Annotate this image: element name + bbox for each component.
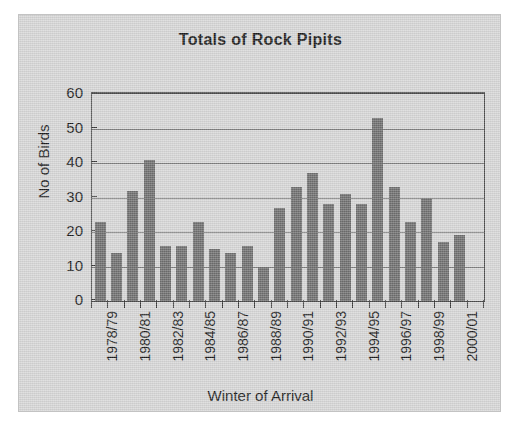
- bar: [127, 191, 138, 301]
- x-axis-tick-labels: 1978/791980/811982/831984/851986/871988/…: [91, 311, 483, 383]
- bar: [144, 160, 155, 301]
- x-axis-tick-mark: [385, 300, 386, 308]
- x-axis-tick-mark: [222, 300, 223, 308]
- bar-series: [92, 94, 484, 301]
- x-axis-tick-mark: [140, 300, 141, 308]
- x-axis-tick-mark: [205, 300, 206, 308]
- bar: [438, 242, 449, 301]
- x-axis-tick-label: 1978/79: [104, 311, 120, 362]
- x-axis-tick-mark: [173, 300, 174, 308]
- y-axis-tick-label: 0: [51, 291, 83, 308]
- y-axis-tick-label: 20: [51, 222, 83, 239]
- bar: [323, 204, 334, 301]
- x-axis-tick-marks: [91, 300, 483, 309]
- x-axis-tick-mark: [254, 300, 255, 308]
- x-axis-tick-mark: [303, 300, 304, 308]
- x-axis-tick-mark: [418, 300, 419, 308]
- bar: [389, 187, 400, 301]
- x-axis-tick-label: 1982/83: [170, 311, 186, 362]
- bar: [405, 222, 416, 301]
- bar: [454, 235, 465, 301]
- x-axis-tick-label: 1986/87: [235, 311, 251, 362]
- x-axis-tick-mark: [238, 300, 239, 308]
- bar: [356, 204, 367, 301]
- x-axis-tick-mark: [336, 300, 337, 308]
- bar: [193, 222, 204, 301]
- x-axis-tick-mark: [483, 300, 484, 308]
- x-axis-tick-mark: [107, 300, 108, 308]
- x-axis-tick-label: 2000/01: [464, 311, 480, 362]
- x-axis-tick-mark: [156, 300, 157, 308]
- x-axis-tick-label: 1984/85: [202, 311, 218, 362]
- x-axis-title: Winter of Arrival: [19, 387, 501, 404]
- plot-area: [91, 92, 485, 302]
- bar: [291, 187, 302, 301]
- x-axis-tick-mark: [189, 300, 190, 308]
- bar: [111, 253, 122, 301]
- bar: [209, 249, 220, 301]
- chart-title: Totals of Rock Pipits: [19, 31, 501, 49]
- x-axis-tick-label: 1996/97: [398, 311, 414, 362]
- bar: [160, 246, 171, 301]
- bar: [307, 173, 318, 301]
- chart-figure: Totals of Rock Pipits No of Birds 605040…: [0, 0, 519, 426]
- y-axis-tick-labels: 6050403020100: [49, 92, 83, 300]
- bar: [95, 222, 106, 301]
- bar: [340, 194, 351, 301]
- bar: [176, 246, 187, 301]
- x-axis-tick-mark: [320, 300, 321, 308]
- x-axis-tick-mark: [369, 300, 370, 308]
- x-axis-tick-mark: [352, 300, 353, 308]
- bar: [258, 267, 269, 302]
- y-axis-tick-label: 10: [51, 256, 83, 273]
- x-axis-tick-mark: [271, 300, 272, 308]
- bar: [421, 198, 432, 302]
- bar: [242, 246, 253, 301]
- y-axis-tick-label: 50: [51, 118, 83, 135]
- x-axis-tick-mark: [287, 300, 288, 308]
- x-axis-tick-label: 1998/99: [431, 311, 447, 362]
- y-axis-tick-label: 60: [51, 84, 83, 101]
- x-axis-tick-mark: [467, 300, 468, 308]
- bar: [274, 208, 285, 301]
- y-axis-tick-mark: [91, 92, 97, 93]
- x-axis-tick-label: 1994/95: [366, 311, 382, 362]
- x-axis-tick-label: 1980/81: [137, 311, 153, 362]
- bar: [225, 253, 236, 301]
- x-axis-tick-label: 1992/93: [333, 311, 349, 362]
- chart-panel: Totals of Rock Pipits No of Birds 605040…: [18, 14, 501, 412]
- x-axis-tick-mark: [401, 300, 402, 308]
- x-axis-tick-mark: [434, 300, 435, 308]
- x-axis-tick-label: 1988/89: [268, 311, 284, 362]
- y-axis-tick-label: 30: [51, 187, 83, 204]
- x-axis-tick-label: 1990/91: [300, 311, 316, 362]
- x-axis-tick-mark: [124, 300, 125, 308]
- x-axis-tick-mark: [91, 300, 92, 308]
- y-axis-tick-label: 40: [51, 153, 83, 170]
- x-axis-tick-mark: [450, 300, 451, 308]
- bar: [372, 118, 383, 301]
